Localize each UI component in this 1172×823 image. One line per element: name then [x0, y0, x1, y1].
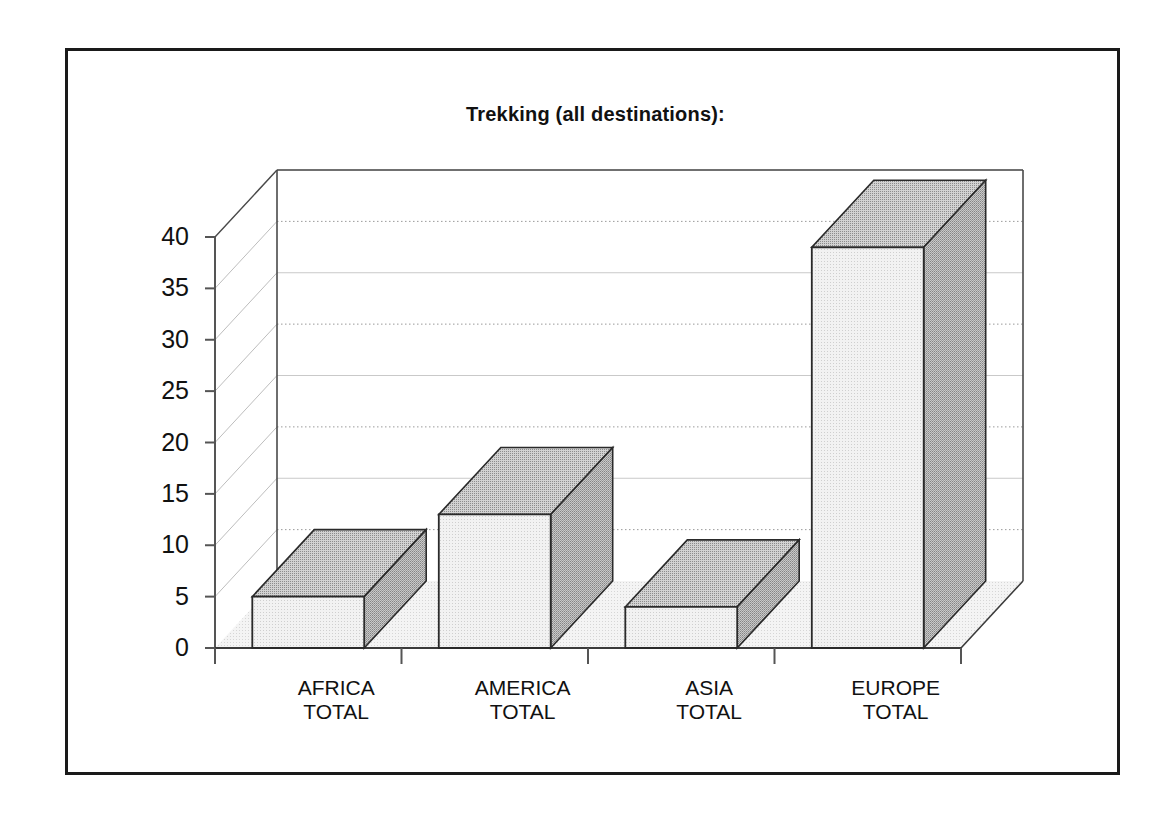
bar-front-face [252, 597, 364, 648]
x-axis-category-line: TOTAL [614, 700, 804, 724]
x-axis-category-line: ASIA [614, 676, 804, 700]
depth-gridline [215, 221, 277, 288]
x-axis-category-line: AMERICA [428, 676, 618, 700]
bar-front-face [439, 514, 551, 648]
y-axis-tick-label: 5 [137, 584, 189, 609]
depth-gridline [215, 376, 277, 443]
y-axis-tick-label: 10 [137, 532, 189, 557]
y-axis-tick-label: 0 [137, 635, 189, 660]
y-axis-tick-label: 20 [137, 430, 189, 455]
axis-top-depth-edge [215, 170, 277, 237]
x-axis-category-line: AFRICA [241, 676, 431, 700]
x-axis-category-label: AMERICATOTAL [428, 676, 618, 724]
bar-group [812, 180, 986, 648]
x-axis-category-label: EUROPETOTAL [801, 676, 991, 724]
y-axis-tick-label: 40 [137, 224, 189, 249]
y-axis-tick-label: 30 [137, 327, 189, 352]
plot-area: 0510152025303540 AFRICATOTALAMERICATOTAL… [68, 51, 1123, 778]
x-axis-category-line: EUROPE [801, 676, 991, 700]
x-axis-category-line: TOTAL [241, 700, 431, 724]
y-axis-tick-label: 15 [137, 481, 189, 506]
x-axis-category-label: ASIATOTAL [614, 676, 804, 724]
bar-side-face [924, 180, 986, 648]
chart-frame: Trekking (all destinations): [65, 48, 1120, 775]
y-axis-tick-label: 25 [137, 378, 189, 403]
bar-front-face [625, 607, 737, 648]
y-axis-tick-label: 35 [137, 275, 189, 300]
x-axis-category-label: AFRICATOTAL [241, 676, 431, 724]
chart-svg [68, 51, 1123, 778]
depth-gridline [215, 324, 277, 391]
x-axis-category-line: TOTAL [428, 700, 618, 724]
depth-gridline [215, 273, 277, 340]
chart-scene [205, 170, 1023, 664]
depth-gridline [215, 427, 277, 494]
x-axis-category-line: TOTAL [801, 700, 991, 724]
bar-front-face [812, 247, 924, 648]
depth-gridline [215, 478, 277, 545]
